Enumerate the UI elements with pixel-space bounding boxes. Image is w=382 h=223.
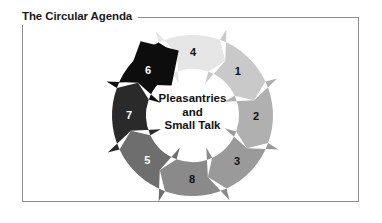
segment-number-1: 1 [235,65,241,77]
segment-number-2: 2 [253,110,259,122]
segment-number-8: 8 [189,173,195,185]
segment-number-4: 4 [190,46,197,58]
figure-container: The Circular Agenda 41238576 Pleasantrie… [0,0,382,223]
circular-cycle-diagram: 41238576 Pleasantries and Small Talk [95,20,290,205]
segment-number-6: 6 [145,64,151,76]
figure-title-text: The Circular Agenda [22,11,132,23]
figure-title: The Circular Agenda [22,9,138,25]
segment-number-7: 7 [126,109,132,121]
cycle-ring-svg: 41238576 [95,20,290,205]
segment-number-3: 3 [234,155,240,167]
segment-number-5: 5 [144,154,150,166]
